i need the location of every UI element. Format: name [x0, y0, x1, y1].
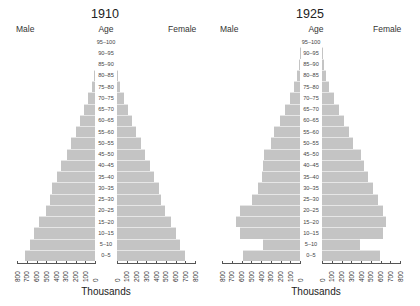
age-group-label: 40–45	[92, 162, 120, 168]
x-tick	[95, 261, 96, 264]
x-tick	[351, 261, 352, 264]
x-axis-label: Thousands	[56, 286, 156, 297]
x-tick-label: 600	[33, 271, 40, 282]
x-tick	[332, 261, 333, 264]
x-tick	[281, 261, 282, 264]
age-group-label: 25–30	[92, 196, 120, 202]
x-tick	[66, 261, 67, 264]
female-bar	[322, 227, 383, 238]
age-group-label: 20–25	[297, 207, 325, 213]
x-tick-label: 700	[182, 271, 189, 282]
chart-title: 1925	[205, 7, 415, 21]
x-tick-label: 800	[192, 271, 199, 282]
x-tick	[127, 261, 128, 264]
age-group-label: 45–50	[297, 151, 325, 157]
x-tick-label: 500	[367, 271, 374, 282]
x-tick-label: 100	[82, 271, 89, 282]
age-group-label: 10–15	[297, 230, 325, 236]
x-tick	[37, 261, 38, 264]
male-label: Male	[220, 24, 238, 34]
age-group-label: 90–95	[297, 50, 325, 56]
x-tick	[56, 261, 57, 264]
x-tick-label: 300	[348, 271, 355, 282]
x-tick	[85, 261, 86, 264]
x-tick-label: 500	[162, 271, 169, 282]
age-group-label: 0–5	[92, 252, 120, 258]
male-bar	[67, 149, 95, 160]
x-tick-label: 0	[92, 278, 99, 282]
x-tick	[300, 261, 301, 264]
female-bar	[322, 194, 378, 205]
female-bar	[322, 171, 368, 182]
male-bar	[271, 137, 300, 148]
x-tick-label: 700	[228, 271, 235, 282]
male-bar	[52, 182, 95, 193]
pyramid-1910: 1910 Male Age Female Thousands 0–55–1010…	[0, 0, 210, 306]
x-tick	[271, 261, 272, 264]
x-tick-label: 400	[53, 271, 60, 282]
female-bar	[117, 250, 185, 261]
male-bar	[39, 216, 95, 227]
male-bar	[236, 216, 300, 227]
female-bar	[117, 227, 176, 238]
x-tick-label: 800	[219, 271, 226, 282]
age-group-label: 10–15	[92, 230, 120, 236]
x-tick	[371, 261, 372, 264]
age-group-label: 50–55	[92, 140, 120, 146]
x-tick	[185, 261, 186, 264]
male-bar	[25, 250, 95, 261]
male-bar	[240, 227, 300, 238]
age-group-label: 55–60	[297, 129, 325, 135]
female-bar	[322, 182, 373, 193]
female-bar	[322, 126, 349, 137]
male-bar	[258, 182, 300, 193]
x-tick	[251, 261, 252, 264]
female-bar	[322, 205, 383, 216]
female-bar	[117, 239, 180, 250]
male-bar	[46, 205, 95, 216]
female-bar	[117, 171, 154, 182]
female-bar	[322, 149, 361, 160]
male-bar	[240, 205, 300, 216]
x-tick	[222, 261, 223, 264]
age-group-label: 85–90	[92, 61, 120, 67]
x-tick-label: 100	[123, 271, 130, 282]
x-tick-label: 700	[23, 271, 30, 282]
age-group-label: 5–10	[297, 241, 325, 247]
age-group-label: 90–95	[92, 50, 120, 56]
age-group-label: 70–75	[92, 95, 120, 101]
female-bar	[322, 160, 364, 171]
x-tick-label: 0	[114, 278, 121, 282]
female-bar	[117, 216, 171, 227]
x-tick-label: 200	[338, 271, 345, 282]
x-tick	[242, 261, 243, 264]
male-bar	[262, 171, 300, 182]
x-tick-label: 0	[319, 278, 326, 282]
x-tick	[322, 261, 323, 264]
female-bar	[322, 250, 380, 261]
x-tick-label: 700	[387, 271, 394, 282]
chart-title: 1910	[0, 7, 210, 21]
x-tick	[342, 261, 343, 264]
age-group-label: 35–40	[92, 174, 120, 180]
x-tick-label: 400	[358, 271, 365, 282]
male-bar	[243, 250, 300, 261]
x-tick	[232, 261, 233, 264]
x-tick-label: 100	[287, 271, 294, 282]
x-tick	[390, 261, 391, 264]
age-group-label: 75–80	[297, 84, 325, 90]
x-tick-label: 200	[133, 271, 140, 282]
x-tick	[76, 261, 77, 264]
age-group-label: 5–10	[92, 241, 120, 247]
x-tick	[381, 261, 382, 264]
x-tick	[176, 261, 177, 264]
x-axis-label: Thousands	[266, 286, 366, 297]
x-tick	[261, 261, 262, 264]
age-group-label: 35–40	[297, 174, 325, 180]
x-tick	[166, 261, 167, 264]
x-tick	[290, 261, 291, 264]
age-group-label: 45–50	[92, 151, 120, 157]
x-tick-label: 200	[72, 271, 79, 282]
female-label: Female	[373, 24, 401, 34]
age-group-label: 80–85	[92, 72, 120, 78]
